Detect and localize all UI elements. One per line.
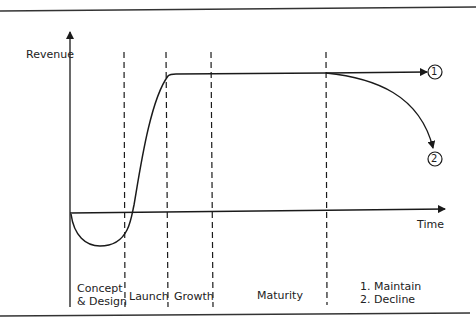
y-axis-label: Revenue <box>26 48 74 61</box>
stage-dividers <box>124 52 327 307</box>
stage-maturity: Maturity <box>257 289 303 302</box>
x-axis-label: Time <box>417 218 444 231</box>
maintain-arrow <box>326 72 427 73</box>
stage-concept-design: Concept& Design <box>77 282 127 308</box>
stage-launch: Launch <box>129 290 169 303</box>
outcome-2-label: 2 <box>431 152 437 165</box>
revenue-curve <box>71 73 326 246</box>
x-axis <box>70 209 445 213</box>
bottom-border <box>0 313 470 316</box>
top-border <box>0 7 476 11</box>
stage-maintain-decline: 1. Maintain2. Decline <box>360 280 421 306</box>
decline-arrow <box>326 73 433 148</box>
stage-growth: Growth <box>174 290 214 303</box>
outcome-1-label: 1 <box>431 65 437 78</box>
